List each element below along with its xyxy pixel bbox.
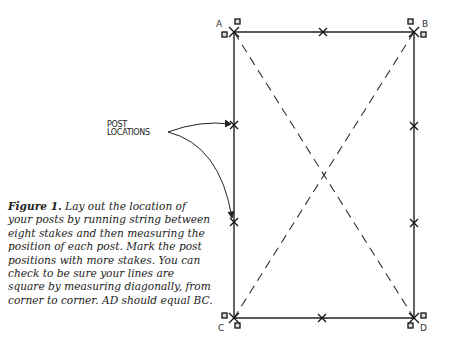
stake-a-left <box>222 32 227 37</box>
corner-label-d: D <box>420 323 427 333</box>
stake-d-right <box>421 313 426 318</box>
stake-a-top <box>235 19 240 24</box>
callout-label-line2: LOCATIONS <box>107 128 150 137</box>
corner-label-a: A <box>216 19 223 29</box>
stakes <box>222 19 426 328</box>
stake-b-top <box>408 19 413 24</box>
stake-c-left <box>222 313 227 318</box>
stake-c-bottom <box>235 323 240 328</box>
stake-b-right <box>421 32 426 37</box>
corner-label-b: B <box>422 19 428 29</box>
figure-caption: Figure 1. Lay out the location of your p… <box>8 200 213 307</box>
stake-d-bottom <box>408 323 413 328</box>
corner-label-c: C <box>218 323 224 333</box>
diagonal-lines <box>234 32 414 318</box>
caption-text: Lay out the location of your posts by ru… <box>8 200 213 306</box>
figure-label: Figure 1. <box>8 200 62 212</box>
